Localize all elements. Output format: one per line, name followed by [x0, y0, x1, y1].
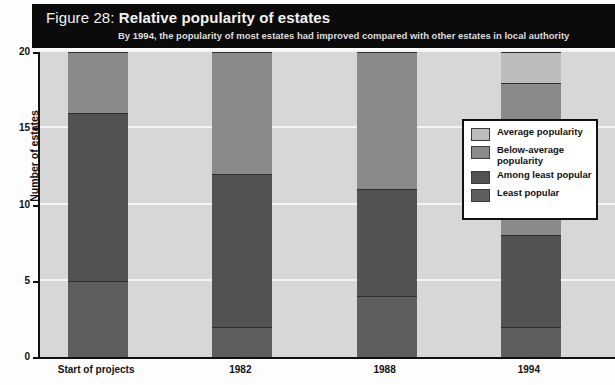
legend-swatch-icon	[471, 128, 490, 141]
legend-item[interactable]: Below-average popularity	[471, 145, 596, 166]
x-axis-tick-label: Start of projects	[31, 364, 161, 375]
x-axis-tick-label: 1982	[175, 364, 305, 375]
legend-item-label: Below-average popularity	[497, 145, 596, 166]
x-axis-tick-label: 1994	[464, 364, 594, 375]
y-axis-label: Number of estates	[28, 76, 40, 236]
legend-swatch-icon	[471, 146, 490, 159]
legend-item[interactable]: Least popular	[471, 188, 596, 202]
legend-item-label: Average popularity	[497, 127, 583, 138]
bar-segment	[212, 174, 272, 327]
bar-segment	[501, 327, 561, 358]
bar-segment	[501, 235, 561, 327]
figure-number: Figure 28:	[46, 9, 115, 26]
x-axis-tick-label: 1988	[320, 364, 450, 375]
y-axis-tick-label: 5	[0, 275, 30, 286]
bar-start-of-projects	[68, 52, 128, 357]
figure-title-banner: Figure 28: Relative popularity of estate…	[32, 4, 615, 48]
figure-container: Figure 28: Relative popularity of estate…	[0, 0, 615, 385]
legend-item[interactable]: Average popularity	[471, 127, 596, 141]
bar-segment	[212, 327, 272, 358]
legend-item[interactable]: Among least popular	[471, 170, 596, 184]
figure-heading: Figure 28: Relative popularity of estate…	[46, 9, 330, 26]
y-axis-tick-label: 0	[0, 351, 30, 362]
bar-segment	[357, 296, 417, 357]
bar-segment	[68, 113, 128, 281]
y-axis-tick-label: 15	[0, 122, 30, 133]
bar-segment	[212, 52, 272, 174]
y-axis-tick-mark	[33, 357, 38, 359]
y-axis-tick-mark	[33, 281, 38, 283]
legend-item-label: Among least popular	[497, 170, 591, 181]
bar-segment	[501, 52, 561, 83]
legend-swatch-icon	[471, 189, 490, 202]
chart-legend: Average popularityBelow-average populari…	[462, 119, 598, 220]
bar-1988	[357, 52, 417, 357]
page-title: Relative popularity of estates	[119, 9, 330, 26]
bar-1982	[212, 52, 272, 357]
y-axis-tick-label: 20	[0, 46, 30, 57]
y-axis-tick-mark	[33, 52, 38, 54]
bar-segment	[357, 52, 417, 189]
legend-item-label: Least popular	[497, 188, 559, 199]
bar-segment	[357, 189, 417, 296]
legend-swatch-icon	[471, 171, 490, 184]
y-axis-tick-label: 10	[0, 199, 30, 210]
bar-segment	[68, 281, 128, 357]
bar-segment	[68, 52, 128, 113]
figure-subtitle: By 1994, the popularity of most estates …	[118, 30, 569, 41]
